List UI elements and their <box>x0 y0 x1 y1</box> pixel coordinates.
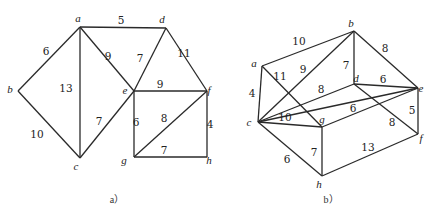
edge-weight-label: 4 <box>249 87 256 99</box>
edge-weight-label: 10 <box>278 111 291 123</box>
edge-weight-label: 13 <box>59 82 72 94</box>
edge-weight-label: 7 <box>96 115 103 127</box>
node-label-g: g <box>121 154 127 166</box>
node-label-a: a <box>75 12 81 24</box>
node-label-e: e <box>123 84 128 96</box>
edge-weight-label: 5 <box>409 104 416 116</box>
edge-weight-label: 7 <box>161 144 168 156</box>
edge-weight-label: 6 <box>133 116 140 128</box>
edge-b-c <box>18 91 80 158</box>
edge-a-b <box>262 31 354 66</box>
node-label-f: f <box>207 84 212 96</box>
node-label-f: f <box>419 132 424 144</box>
graph-a: 5613910771196847abcdefgha） <box>7 12 213 205</box>
figure-caption-a: a） <box>110 194 124 205</box>
edge-weight-label: 7 <box>343 59 350 71</box>
edge-weight-label: 6 <box>380 73 387 85</box>
edge-c-d <box>258 84 354 122</box>
node-label-g: g <box>319 113 325 125</box>
node-label-h: h <box>206 154 212 166</box>
edge-g-f <box>134 91 207 157</box>
edge-weight-label: 9 <box>105 50 112 62</box>
edge-weight-label: 11 <box>273 70 286 82</box>
edge-weight-label: 8 <box>318 83 325 95</box>
node-label-h: h <box>316 178 322 190</box>
edge-weight-label: 11 <box>177 47 190 59</box>
edge-weight-label: 7 <box>311 146 318 158</box>
edge-a-d <box>80 27 166 28</box>
edge-d-f <box>166 28 207 91</box>
node-label-c: c <box>247 116 252 128</box>
edge-weight-label: 7 <box>137 52 144 64</box>
edge-weight-label: 8 <box>382 42 389 54</box>
edge-weight-label: 9 <box>300 63 307 75</box>
graph-figure: 5613910771196847abcdefgha） 1041197886106… <box>0 0 439 222</box>
edge-c-e <box>80 91 134 158</box>
edge-weight-label: 10 <box>292 35 305 47</box>
edge-weight-label: 9 <box>157 78 164 90</box>
node-label-e: e <box>419 82 424 94</box>
edge-a-c <box>258 66 262 122</box>
edge-g-e <box>322 88 418 127</box>
edge-weight-label: 8 <box>161 112 168 124</box>
figure-caption-b: b） <box>324 194 339 205</box>
edge-a-g <box>262 66 322 127</box>
node-label-b: b <box>7 83 13 95</box>
edge-weight-label: 6 <box>43 45 50 57</box>
node-label-a: a <box>251 57 257 69</box>
graph-b: 1041197886106856713abcdefghb） <box>247 17 425 205</box>
edge-weight-label: 4 <box>207 118 214 130</box>
edge-weight-label: 5 <box>118 14 125 26</box>
edge-weight-label: 8 <box>389 116 396 128</box>
node-label-d: d <box>159 13 165 25</box>
node-label-c: c <box>74 160 79 172</box>
edge-weight-label: 6 <box>284 153 291 165</box>
node-label-b: b <box>348 17 354 29</box>
edge-weight-label: 13 <box>361 141 374 153</box>
edge-weight-label: 6 <box>350 102 357 114</box>
node-label-d: d <box>353 72 359 84</box>
edge-weight-label: 10 <box>30 128 43 140</box>
